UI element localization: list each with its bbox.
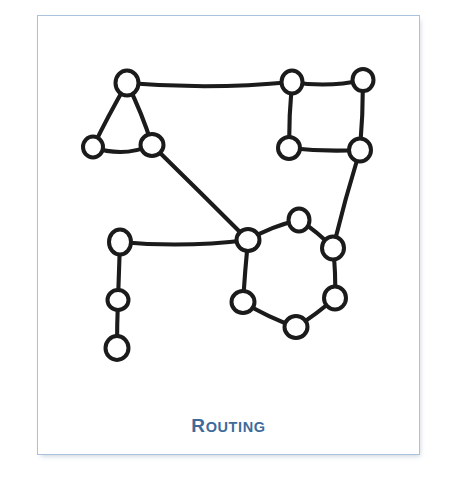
figure-root: ROUTING [0, 0, 455, 478]
caption-initial: R [191, 415, 205, 436]
caption-rest: OUTING [206, 419, 266, 435]
figure-caption: ROUTING [37, 415, 420, 437]
figure-card [37, 15, 420, 455]
